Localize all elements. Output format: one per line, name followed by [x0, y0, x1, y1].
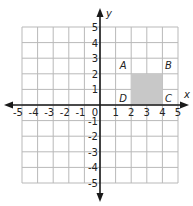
x-tick-label: 3 [144, 107, 150, 118]
x-tick-label: 4 [159, 107, 165, 118]
y-tick-label: 5 [92, 22, 98, 33]
y-tick-label: 1 [92, 84, 98, 95]
coordinate-plane: -5-4-3-2-101234554321-1-2-3-4-5 ABCD x y [0, 0, 193, 206]
y-tick-label: -5 [88, 178, 98, 189]
x-tick-label: -4 [29, 107, 39, 118]
point-label-c: C [165, 93, 172, 104]
y-tick-label: -3 [88, 147, 98, 158]
y-tick-label: -4 [88, 162, 98, 173]
y-axis-label: y [105, 8, 113, 19]
x-tick-label: 5 [175, 107, 181, 118]
point-label-d: D [119, 93, 127, 104]
shaded-square [131, 74, 162, 105]
x-tick-label: -5 [13, 107, 23, 118]
x-tick-label: -1 [75, 107, 85, 118]
y-tick-label: 4 [92, 38, 98, 49]
point-label-b: B [165, 60, 172, 71]
y-tick-label: 2 [92, 69, 98, 80]
x-axis-label: x [183, 89, 190, 100]
y-tick-label: 3 [92, 53, 98, 64]
x-tick-label: 2 [128, 107, 134, 118]
y-tick-label: -2 [88, 131, 98, 142]
x-tick-label: -2 [60, 107, 70, 118]
y-tick-label: -1 [88, 116, 98, 127]
point-label-a: A [119, 60, 127, 71]
x-tick-label: -3 [44, 107, 54, 118]
x-tick-label: 1 [112, 107, 118, 118]
